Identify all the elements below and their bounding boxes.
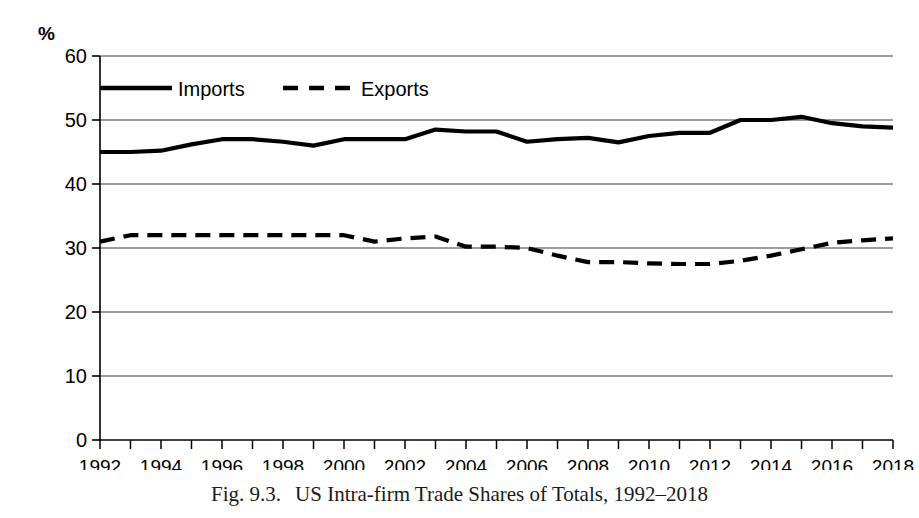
x-axis-tick-label: 2018: [872, 456, 914, 470]
legend-label-exports: Exports: [361, 78, 429, 100]
x-axis-tick-label: 2004: [445, 456, 488, 470]
line-chart-svg: 0102030405060 19921994199619982000200220…: [0, 0, 919, 470]
y-axis-tick-label: 20: [65, 301, 87, 323]
y-axis-tick-label: 0: [76, 429, 87, 451]
x-axis-tick-label: 1996: [201, 456, 243, 470]
figure-caption-number: Fig. 9.3.: [211, 482, 281, 506]
y-axis-tick-label: 30: [65, 237, 87, 259]
y-axis-tick-label: 50: [65, 109, 87, 131]
x-axis-tick-label: 2014: [750, 456, 793, 470]
x-axis-tick-label: 2016: [811, 456, 853, 470]
y-axis-ticks-group: 0102030405060: [65, 45, 100, 451]
chart-plot-area: % 0102030405060 199219941996199820002002…: [0, 0, 919, 470]
x-axis-tick-label: 2008: [567, 456, 609, 470]
chart-legend: ImportsExports: [100, 78, 429, 100]
data-series-group: [100, 117, 893, 264]
series-line-exports: [100, 235, 893, 264]
x-axis-tick-label: 1998: [262, 456, 304, 470]
y-axis-tick-label: 60: [65, 45, 87, 67]
y-axis-tick-label: 10: [65, 365, 87, 387]
series-line-imports: [100, 117, 893, 152]
x-axis-ticks-group: 1992199419961998200020022004200620082010…: [79, 440, 914, 470]
x-axis-tick-label: 1992: [79, 456, 121, 470]
x-axis-tick-label: 1994: [140, 456, 183, 470]
y-axis-unit-label: %: [38, 24, 55, 43]
x-axis-tick-label: 2002: [384, 456, 426, 470]
y-axis-tick-label: 40: [65, 173, 87, 195]
x-axis-tick-label: 2012: [689, 456, 731, 470]
figure-caption: Fig. 9.3.US Intra-firm Trade Shares of T…: [0, 482, 919, 507]
legend-label-imports: Imports: [178, 78, 245, 100]
figure-container: % 0102030405060 199219941996199820002002…: [0, 0, 919, 518]
x-axis-tick-label: 2010: [628, 456, 670, 470]
gridlines-group: [100, 56, 893, 376]
x-axis-tick-label: 2000: [323, 456, 365, 470]
x-axis-tick-label: 2006: [506, 456, 548, 470]
figure-caption-text: US Intra-firm Trade Shares of Totals, 19…: [295, 482, 708, 506]
